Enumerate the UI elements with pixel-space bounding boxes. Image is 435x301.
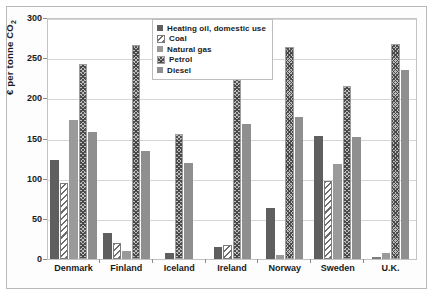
y-axis-tick-label: 250: [0, 53, 42, 63]
bar-diesel: [401, 70, 410, 259]
bar-coal: [223, 245, 232, 259]
bar-petrol: [285, 47, 294, 259]
bar-diesel: [88, 132, 97, 259]
bar-natural-gas: [276, 255, 285, 259]
x-axis-category-label: Ireland: [206, 263, 259, 273]
x-axis-category-label: Finland: [100, 263, 153, 273]
bar-petrol: [132, 45, 141, 259]
legend-item[interactable]: Heating oil, domestic use: [157, 23, 266, 34]
legend-swatch-petrol: [157, 56, 165, 64]
y-axis-tick-mark: [43, 58, 47, 59]
x-axis-category-label: Iceland: [153, 263, 206, 273]
bar-group: [311, 18, 364, 259]
y-axis-tick-mark: [43, 98, 47, 99]
bar-natural-gas: [382, 253, 391, 259]
bar-heating-oil-domestic-use: [214, 247, 223, 259]
legend-item[interactable]: Diesel: [157, 65, 266, 76]
legend-swatch-heating-oil: [157, 25, 163, 31]
legend-swatch-natural-gas: [157, 46, 163, 52]
bar-heating-oil-domestic-use: [50, 160, 59, 259]
bar-petrol: [233, 73, 242, 259]
y-axis-tick-label: 100: [0, 174, 42, 184]
x-axis-category-label: Sweden: [311, 263, 364, 273]
bar-natural-gas: [333, 164, 342, 259]
bar-natural-gas: [122, 251, 131, 259]
bar-diesel: [352, 137, 361, 259]
x-axis-category-label: Norway: [258, 263, 311, 273]
bar-heating-oil-domestic-use: [165, 253, 174, 259]
legend-item[interactable]: Coal: [157, 34, 266, 45]
bar-group: [47, 18, 100, 259]
legend-item-label: Diesel: [167, 66, 191, 75]
legend-swatch-coal: [157, 35, 165, 43]
legend-item-label: Natural gas: [167, 45, 212, 54]
legend-swatch-diesel: [157, 67, 163, 73]
bar-petrol: [391, 44, 400, 259]
y-axis-tick-mark: [43, 259, 47, 260]
y-axis-tick-mark: [43, 18, 47, 19]
x-axis-category-label: Denmark: [47, 263, 100, 273]
bar-coal: [324, 181, 333, 259]
bar-diesel: [295, 117, 304, 259]
bar-petrol: [343, 86, 352, 259]
bar-natural-gas: [69, 120, 78, 259]
bar-diesel: [242, 124, 251, 259]
x-axis-category-label: U.K.: [364, 263, 417, 273]
legend-item-label: Coal: [169, 34, 187, 43]
bar-group: [100, 18, 153, 259]
legend-item[interactable]: Natural gas: [157, 44, 266, 55]
legend-item-label: Heating oil, domestic use: [167, 24, 266, 33]
bar-petrol: [79, 64, 88, 259]
bar-heating-oil-domestic-use: [103, 233, 112, 260]
x-axis-labels: DenmarkFinlandIcelandIrelandNorwaySweden…: [47, 263, 417, 273]
y-axis-tick-label: 50: [0, 214, 42, 224]
bar-petrol: [175, 134, 184, 259]
y-axis-tick-label: 300: [0, 13, 42, 23]
y-axis-tick-mark: [43, 179, 47, 180]
chart-legend: Heating oil, domestic useCoalNatural gas…: [152, 19, 273, 80]
bar-coal: [113, 243, 122, 259]
legend-item[interactable]: Petrol: [157, 55, 266, 66]
y-axis-tick-label: 200: [0, 93, 42, 103]
bar-diesel: [141, 151, 150, 259]
y-axis-tick-label: 150: [0, 134, 42, 144]
y-axis-tick-mark: [43, 139, 47, 140]
grouped-bar-chart: € per tonne CO2 DenmarkFinlandIcelandIre…: [0, 0, 435, 301]
legend-item-label: Petrol: [169, 55, 192, 64]
bar-coal: [372, 257, 381, 259]
bar-diesel: [184, 163, 193, 259]
bar-heating-oil-domestic-use: [266, 208, 275, 259]
bar-group: [364, 18, 417, 259]
y-axis-tick-label: 0: [0, 254, 42, 264]
y-axis-tick-mark: [43, 219, 47, 220]
bar-coal: [60, 183, 69, 259]
bar-heating-oil-domestic-use: [314, 136, 323, 259]
